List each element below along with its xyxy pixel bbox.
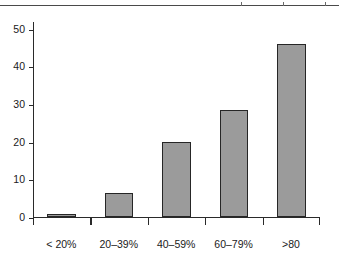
y-axis-tick: 20 [29, 143, 33, 144]
y-axis-tick-label: 10 [13, 173, 25, 186]
x-axis-tick [148, 218, 149, 225]
cropped-axis-tick [241, 2, 242, 6]
x-axis-tick [33, 218, 34, 225]
cropped-axis-tick [325, 2, 326, 6]
cropped-adjacent-axis [0, 2, 339, 10]
y-axis-tick-label: 20 [13, 136, 25, 149]
bar-category-3[interactable] [220, 110, 249, 217]
cropped-axis-tick [283, 2, 284, 6]
y-axis-tick-label: 30 [13, 98, 25, 111]
x-axis-tick-label: < 20% [33, 238, 90, 251]
y-axis-tick: 40 [29, 67, 33, 68]
y-axis-tick-label: 50 [13, 23, 25, 36]
cropped-axis-line [0, 5, 339, 6]
y-axis-tick-label: 0 [19, 211, 25, 224]
plot-area: 0 10 20 30 40 50 < 20% 20–39% [33, 22, 320, 218]
x-axis-tick [205, 218, 206, 225]
x-axis-tick [263, 218, 264, 225]
x-axis-tick-label: >80 [262, 238, 319, 251]
y-axis-line [33, 22, 34, 218]
x-axis-line [33, 217, 320, 218]
bar-category-1[interactable] [105, 193, 134, 218]
bar-chart-figure: 0 10 20 30 40 50 < 20% 20–39% [0, 0, 339, 266]
x-axis-tick-label: 40–59% [148, 238, 205, 251]
y-axis-tick: 50 [29, 30, 33, 31]
x-axis-tick [319, 218, 320, 225]
bar-category-4[interactable] [277, 44, 306, 217]
y-axis-tick: 10 [29, 180, 33, 181]
y-axis-tick: 30 [29, 105, 33, 106]
x-axis-tick [90, 218, 91, 225]
x-axis-tick-label: 20–39% [90, 238, 147, 251]
bar-category-2[interactable] [162, 142, 191, 217]
y-axis-tick-label: 40 [13, 60, 25, 73]
bar-category-0[interactable] [47, 214, 76, 217]
x-axis-tick-label: 60–79% [205, 238, 262, 251]
